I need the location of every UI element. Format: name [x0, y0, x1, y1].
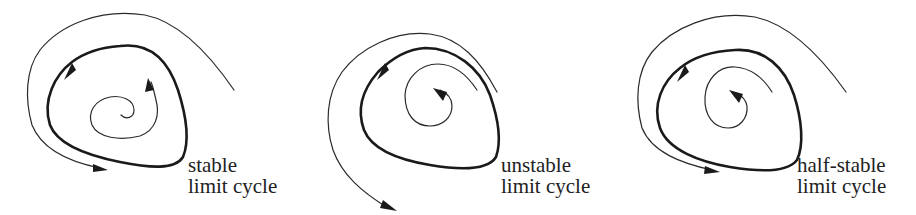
- panel-stable: stable limit cycle: [27, 13, 277, 198]
- panel-half-stable: half-stable limit cycle: [638, 15, 886, 198]
- panel-label-line2: limit cycle: [797, 174, 886, 198]
- outer-trajectory: [27, 13, 234, 168]
- limit-cycle-figure: stable limit cycle unstable limit cycle …: [0, 0, 916, 215]
- panel-unstable: unstable limit cycle: [328, 33, 590, 211]
- limit-cycle-curve: [361, 48, 499, 168]
- panel-label-line2: limit cycle: [501, 174, 590, 198]
- outer-trajectory-arrow-icon: [380, 200, 397, 211]
- panel-label-line2: limit cycle: [188, 174, 277, 198]
- outer-trajectory: [638, 15, 846, 170]
- inner-spiral-arrow-icon: [729, 90, 743, 103]
- outer-trajectory-arrow-icon: [93, 164, 108, 172]
- cycle-arrow-icon: [64, 63, 76, 80]
- limit-cycle-curve: [657, 50, 801, 170]
- outer-trajectory-arrow-icon: [704, 166, 720, 174]
- outer-trajectory: [328, 33, 497, 208]
- limit-cycle-curve: [48, 45, 187, 166]
